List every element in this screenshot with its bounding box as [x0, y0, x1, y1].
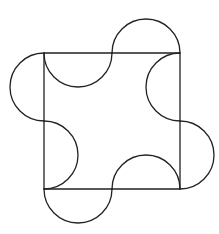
square — [44, 53, 180, 189]
semicircle-bottom-inward — [112, 155, 180, 189]
semicircle-right-outward — [180, 121, 214, 189]
semicircle-top-outward — [112, 19, 180, 53]
semicircle-arcs — [10, 19, 214, 223]
semicircle-bottom-outward — [44, 189, 112, 223]
semicircle-left-inward — [44, 121, 78, 189]
geometry-diagram — [0, 0, 219, 234]
semicircle-left-outward — [10, 53, 44, 121]
semicircle-right-inward — [146, 53, 180, 121]
semicircle-top-inward — [44, 53, 112, 87]
